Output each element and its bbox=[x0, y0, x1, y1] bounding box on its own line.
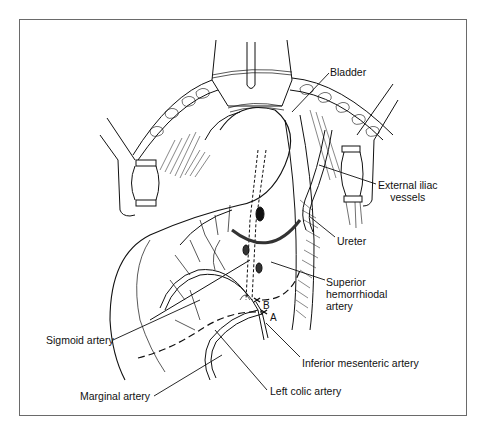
retractor-right bbox=[341, 84, 398, 228]
label-marginal-artery: Marginal artery bbox=[80, 390, 150, 402]
label-left-colic-artery: Left colic artery bbox=[270, 385, 341, 397]
label-point-b: B bbox=[263, 300, 270, 311]
label-point-a: A bbox=[270, 312, 277, 323]
label-external-iliac-vessels: External iliac vessels bbox=[378, 179, 438, 203]
label-bladder: Bladder bbox=[330, 66, 366, 78]
anatomy-illustration bbox=[0, 0, 481, 443]
label-inferior-mesenteric-artery: Inferior mesenteric artery bbox=[302, 357, 419, 369]
label-superior-hemorrhoidal-artery: Superior hemorrhiodal artery bbox=[326, 276, 387, 312]
mesenteric-arteries bbox=[138, 205, 300, 380]
label-sigmoid-artery: Sigmoid artery bbox=[46, 334, 114, 346]
label-ureter: Ureter bbox=[337, 235, 366, 247]
